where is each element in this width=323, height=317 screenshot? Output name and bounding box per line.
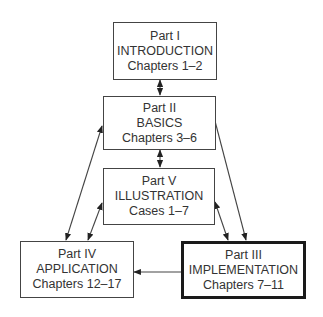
box-part-v: Part V ILLUSTRATION Cases 1–7 (103, 168, 215, 225)
part-label: Part II (143, 101, 176, 116)
part-range: Chapters 1–2 (127, 59, 202, 74)
part-title: INTRODUCTION (117, 44, 213, 59)
part-label: Part I (150, 29, 180, 44)
part-title: BASICS (137, 116, 183, 131)
part-label: Part IV (58, 247, 96, 262)
arrow-ii-iii (215, 121, 246, 240)
box-part-iii: Part III IMPLEMENTATION Chapters 7–11 (181, 241, 306, 299)
part-range: Cases 1–7 (129, 204, 189, 219)
part-title: ILLUSTRATION (115, 189, 204, 204)
arrow-ii-iv (66, 126, 102, 240)
part-range: Chapters 3–6 (122, 131, 197, 146)
part-range: Chapters 7–11 (203, 278, 284, 293)
arrow-v-iv (88, 203, 102, 240)
box-part-ii: Part II BASICS Chapters 3–6 (103, 96, 216, 150)
part-title: IMPLEMENTATION (189, 263, 298, 278)
box-part-i: Part I INTRODUCTION Chapters 1–2 (113, 22, 217, 80)
box-part-iv: Part IV APPLICATION Chapters 12–17 (20, 241, 134, 298)
arrow-v-iii (215, 202, 228, 240)
part-title: APPLICATION (36, 262, 118, 277)
part-label: Part III (225, 248, 262, 263)
part-range: Chapters 12–17 (33, 277, 122, 292)
part-label: Part V (142, 174, 177, 189)
